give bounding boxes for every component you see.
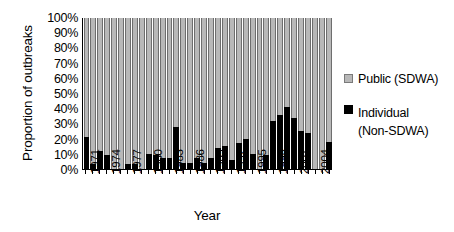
- x-axis-title: Year: [82, 208, 332, 223]
- x-tick-label: 1992: [235, 149, 247, 174]
- bar-column: [208, 18, 215, 169]
- bar-segment-public: [305, 18, 311, 133]
- bar-segment-public: [180, 18, 186, 163]
- bar-segment-public: [215, 18, 221, 148]
- bar-column: [249, 18, 256, 169]
- bar-series-container: [83, 18, 332, 169]
- bar-segment-public: [222, 18, 228, 146]
- individual-swatch-icon: [344, 105, 353, 114]
- bar-column: [215, 18, 222, 169]
- bar-segment-public: [139, 18, 145, 169]
- x-tick-label: 1986: [194, 149, 206, 174]
- bar-segment-public: [160, 18, 166, 158]
- bar-segment-public: [284, 18, 290, 107]
- bar-column: [104, 18, 111, 169]
- bar-segment-public: [153, 18, 159, 155]
- x-axis-tick-labels: 1971197419771980198319861989199219951998…: [82, 174, 332, 208]
- bar-segment-individual: [229, 160, 235, 169]
- bar-segment-public: [146, 18, 152, 154]
- bar-segment-public: [132, 18, 138, 164]
- bar-segment-individual: [250, 154, 256, 169]
- x-tick-label: 1998: [277, 149, 289, 174]
- bar-segment-public: [270, 18, 276, 121]
- bar-column: [263, 18, 270, 169]
- legend-label-individual: Individual: [358, 106, 409, 120]
- bar-column: [180, 18, 187, 169]
- bar-segment-public: [104, 18, 110, 155]
- bar-segment-public: [97, 18, 103, 151]
- bar-segment-public: [277, 18, 283, 115]
- bar-segment-public: [257, 18, 263, 169]
- bar-segment-individual: [187, 163, 193, 169]
- x-tick-label: 1983: [173, 149, 185, 174]
- y-tick-label: 40%: [36, 103, 78, 115]
- bar-column: [166, 18, 173, 169]
- legend-item-individual: Individual (Non-SDWA): [344, 103, 452, 139]
- bar-segment-public: [201, 18, 207, 163]
- bar-column: [284, 18, 291, 169]
- y-axis-tick-labels: 100%90%80%70%60%50%40%30%20%10%0%: [36, 10, 78, 180]
- bar-segment-public: [236, 18, 242, 143]
- x-tick-label: 1980: [152, 149, 164, 174]
- bar-segment-public: [84, 18, 90, 137]
- x-tick-label: 1977: [131, 149, 143, 174]
- legend-sublabel-individual: (Non-SDWA): [358, 124, 428, 138]
- x-tick-label: 1971: [89, 149, 101, 174]
- bar-column: [118, 18, 125, 169]
- bar-column: [152, 18, 159, 169]
- y-tick-label: 90%: [36, 27, 78, 39]
- bar-column: [325, 18, 332, 169]
- x-tick-label: 1989: [214, 149, 226, 174]
- y-tick-label: 30%: [36, 118, 78, 130]
- bar-column: [242, 18, 249, 169]
- bar-segment-public: [291, 18, 297, 118]
- bar-column: [83, 18, 90, 169]
- bar-segment-public: [167, 18, 173, 158]
- bar-column: [97, 18, 104, 169]
- bar-column: [311, 18, 318, 169]
- bar-segment-individual: [167, 158, 173, 169]
- bar-column: [125, 18, 132, 169]
- bar-column: [277, 18, 284, 169]
- x-tick-label: 2004: [319, 149, 331, 174]
- bar-segment-public: [326, 18, 332, 142]
- bar-column: [291, 18, 298, 169]
- bar-column: [298, 18, 305, 169]
- y-tick-label: 10%: [36, 149, 78, 161]
- bar-segment-individual: [146, 154, 152, 169]
- y-tick-label: 0%: [36, 164, 78, 176]
- y-tick-label: 80%: [36, 42, 78, 54]
- bar-segment-public: [118, 18, 124, 169]
- bar-segment-public: [243, 18, 249, 139]
- legend-label-individual-wrap: Individual (Non-SDWA): [358, 103, 428, 139]
- bar-column: [318, 18, 325, 169]
- bar-segment-public: [194, 18, 200, 158]
- bar-segment-individual: [291, 118, 297, 169]
- bar-segment-public: [111, 18, 117, 169]
- bar-column: [138, 18, 145, 169]
- bar-column: [235, 18, 242, 169]
- bar-column: [159, 18, 166, 169]
- bar-column: [256, 18, 263, 169]
- bar-segment-individual: [270, 121, 276, 169]
- bar-column: [131, 18, 138, 169]
- bar-column: [228, 18, 235, 169]
- bar-segment-public: [298, 18, 304, 131]
- bar-column: [305, 18, 312, 169]
- bar-segment-public: [173, 18, 179, 127]
- bar-column: [173, 18, 180, 169]
- bar-column: [145, 18, 152, 169]
- y-tick-label: 100%: [36, 12, 78, 24]
- bar-segment-public: [250, 18, 256, 154]
- y-tick-label: 50%: [36, 88, 78, 100]
- bar-column: [90, 18, 97, 169]
- chart-legend: Public (SDWA) Individual (Non-SDWA): [344, 72, 452, 155]
- plot-area: [82, 18, 332, 170]
- legend-label-public: Public (SDWA): [358, 72, 438, 87]
- x-tick-label: 1974: [110, 149, 122, 174]
- bar-segment-public: [187, 18, 193, 163]
- bar-segment-public: [229, 18, 235, 160]
- bar-segment-public: [208, 18, 214, 158]
- y-tick-label: 60%: [36, 73, 78, 85]
- y-tick-label: 70%: [36, 58, 78, 70]
